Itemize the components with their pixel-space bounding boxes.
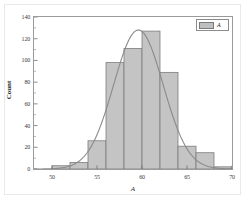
y-axis-tick-labels: 020406080100120140 xyxy=(12,16,30,170)
y-axis-tick-label: 40 xyxy=(24,123,30,129)
y-axis-tick-label: 20 xyxy=(24,144,30,150)
x-axis-tick-labels: 5055606570 xyxy=(33,174,233,183)
x-axis-title: A xyxy=(33,185,233,193)
histogram-bar xyxy=(142,31,160,169)
x-axis-tick-label: 65 xyxy=(184,174,190,180)
y-axis-ticks xyxy=(34,17,38,169)
histogram-bar xyxy=(124,48,142,169)
histogram-figure: Count 020406080100120140 5055606570 A A xyxy=(0,0,245,199)
histogram-bar xyxy=(88,141,106,169)
chart-legend: A xyxy=(196,19,229,31)
x-axis-tick-label: 55 xyxy=(94,174,100,180)
plot-frame xyxy=(33,16,233,170)
y-axis-tick-label: 120 xyxy=(22,36,30,42)
histogram-bar xyxy=(70,162,88,169)
x-axis-tick-label: 60 xyxy=(139,174,145,180)
x-axis-tick-label: 50 xyxy=(49,174,55,180)
y-axis-tick-label: 0 xyxy=(27,166,30,172)
histogram-bar xyxy=(160,72,178,169)
y-axis-tick-label: 140 xyxy=(22,14,30,20)
histogram-bar xyxy=(196,153,214,169)
histogram-bars xyxy=(52,31,232,169)
y-axis-tick-label: 80 xyxy=(24,79,30,85)
y-axis-tick-label: 100 xyxy=(22,57,30,63)
legend-swatch-a xyxy=(199,22,214,29)
y-axis-tick-label: 60 xyxy=(24,101,30,107)
plot-area xyxy=(34,17,232,169)
x-axis-tick-label: 70 xyxy=(229,174,235,180)
chart-canvas xyxy=(34,17,232,169)
legend-label-a: A xyxy=(217,22,221,28)
